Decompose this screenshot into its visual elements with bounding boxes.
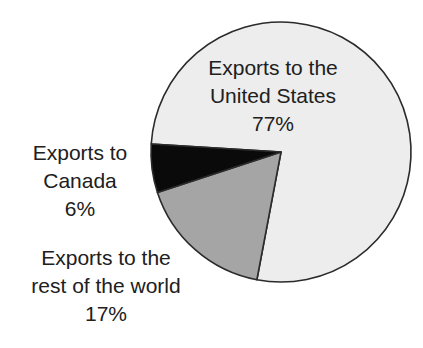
label-united-states-line2: United States [173, 82, 373, 110]
label-canada-pct: 6% [0, 195, 160, 223]
label-canada: Exports to Canada 6% [0, 139, 160, 223]
label-united-states-pct: 77% [173, 110, 373, 138]
label-canada-line1: Exports to [0, 139, 160, 167]
label-rest-of-world-pct: 17% [1, 300, 211, 328]
pie-chart-figure: Exports to the United States 77% Exports… [0, 0, 423, 348]
label-rest-of-world: Exports to the rest of the world 17% [1, 244, 211, 328]
label-rest-of-world-line1: Exports to the [1, 244, 211, 272]
label-rest-of-world-line2: rest of the world [1, 272, 211, 300]
label-united-states-line1: Exports to the [173, 54, 373, 82]
label-canada-line2: Canada [0, 167, 160, 195]
label-united-states: Exports to the United States 77% [173, 54, 373, 138]
